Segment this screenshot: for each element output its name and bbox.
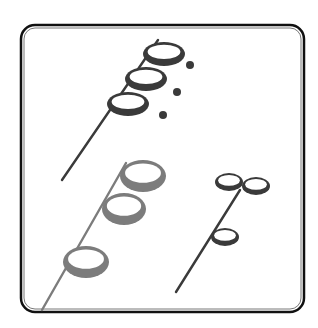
ring-hole: [130, 70, 163, 84]
bottom-gray-group: [42, 160, 166, 310]
stem-line: [42, 163, 126, 310]
ring-hole: [125, 164, 161, 183]
ring-hole: [218, 175, 240, 186]
ring-hole: [148, 45, 181, 59]
top-dark-group: [62, 40, 194, 180]
right-dark-group: [176, 173, 270, 292]
ring-hole: [107, 197, 141, 216]
dot: [173, 88, 181, 96]
ring-hole: [68, 250, 104, 269]
figure-canvas: [0, 0, 318, 328]
ring-hole: [112, 95, 145, 109]
ring-hole: [245, 179, 267, 190]
dot: [159, 111, 167, 119]
shape-groups: [42, 40, 270, 310]
ring-hole: [214, 230, 236, 241]
dot: [186, 61, 194, 69]
